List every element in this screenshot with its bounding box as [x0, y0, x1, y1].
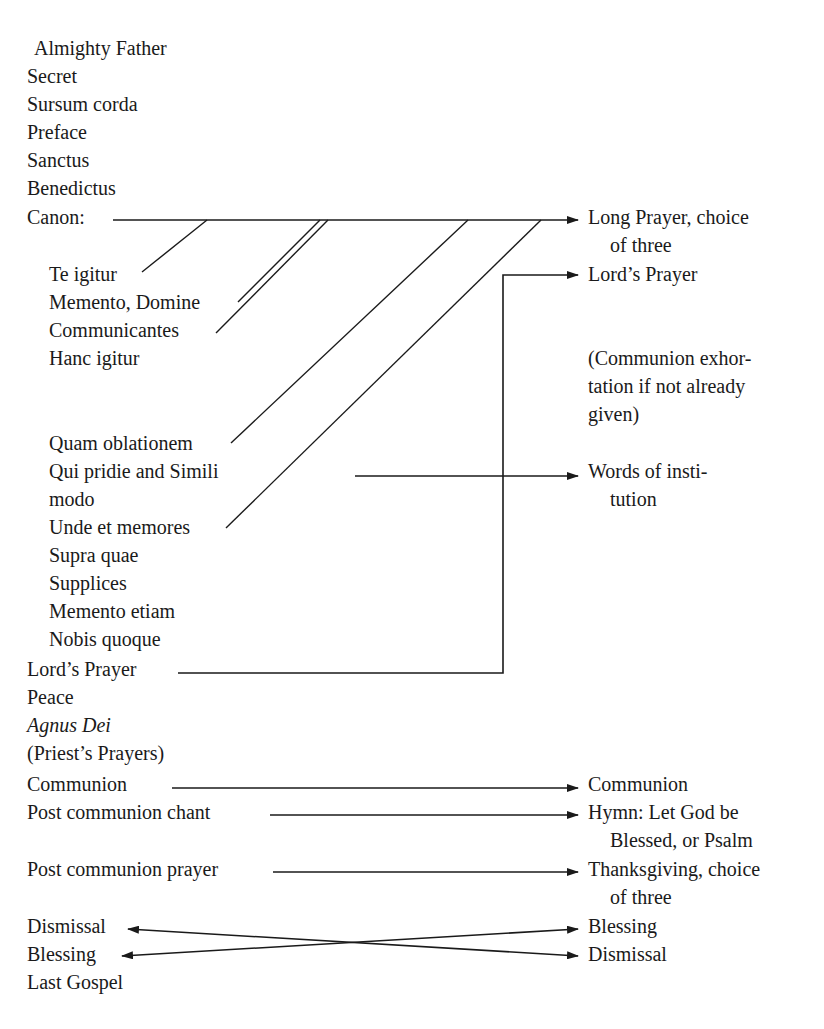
prayer-book-item-label: given) [588, 402, 639, 426]
prayer-book-item-label: tution [610, 487, 657, 511]
prayer-book-item-label: of three [610, 885, 672, 909]
mass-item-label: Sanctus [27, 148, 89, 172]
prayer-book-item-label: Communion [588, 772, 688, 796]
canon-part-label: modo [49, 487, 95, 511]
te-igitur-link-line [142, 220, 207, 272]
arrow-connectors [113, 220, 578, 956]
mass-item-label: Communion [27, 772, 127, 796]
canon-part-label: Memento etiam [49, 599, 175, 623]
prayer-book-item-label: Blessed, or Psalm [610, 828, 753, 852]
prayer-book-item-label: tation if not already [588, 374, 745, 398]
canon-part-label: Te igitur [49, 262, 117, 286]
prayer-book-item-label: (Communion exhor- [588, 346, 751, 370]
mass-item-label: Agnus Dei [27, 713, 111, 737]
mass-item-label: Post communion chant [27, 800, 210, 824]
canon-part-label: Hanc igitur [49, 346, 140, 370]
mass-item-label: Last Gospel [27, 970, 123, 994]
canon-part-label: Nobis quoque [49, 627, 161, 651]
mass-item-label: Benedictus [27, 176, 116, 200]
memento-domine-link-line [238, 220, 320, 302]
mass-item-label: Post communion prayer [27, 857, 218, 881]
lords-prayer-return-arrow [178, 275, 578, 673]
mass-item-label: (Priest’s Prayers) [27, 741, 164, 765]
canon-part-label: Memento, Domine [49, 290, 200, 314]
canon-part-label: Qui pridie and Simili [49, 459, 218, 483]
canon-part-label: Quam oblationem [49, 431, 193, 455]
prayer-book-item-label: Blessing [588, 914, 657, 938]
canon-part-label: Communicantes [49, 318, 179, 342]
prayer-book-item-label: Lord’s Prayer [588, 262, 697, 286]
mass-item-label: Blessing [27, 942, 96, 966]
canon-part-label: Unde et memores [49, 515, 190, 539]
communicantes-link-line [216, 220, 328, 333]
mass-item-label: Lord’s Prayer [27, 657, 136, 681]
prayer-book-item-label: Thanksgiving, choice [588, 857, 760, 881]
mass-item-label: Secret [27, 64, 77, 88]
mass-item-label: Sursum corda [27, 92, 138, 116]
quam-oblationem-link-line [231, 220, 468, 443]
mass-item-label: Dismissal [27, 914, 106, 938]
mass-item-label: Preface [27, 120, 87, 144]
prayer-book-item-label: Hymn: Let God be [588, 800, 739, 824]
prayer-book-item-label: Long Prayer, choice [588, 205, 749, 229]
mass-item-label: Peace [27, 685, 74, 709]
prayer-book-item-label: of three [610, 233, 672, 257]
canon-part-label: Supra quae [49, 543, 138, 567]
mass-item-label: Canon: [27, 205, 85, 229]
mass-item-label: Almighty Father [34, 36, 167, 60]
canon-part-label: Supplices [49, 571, 127, 595]
prayer-book-item-label: Words of insti- [588, 459, 708, 483]
prayer-book-item-label: Dismissal [588, 942, 667, 966]
